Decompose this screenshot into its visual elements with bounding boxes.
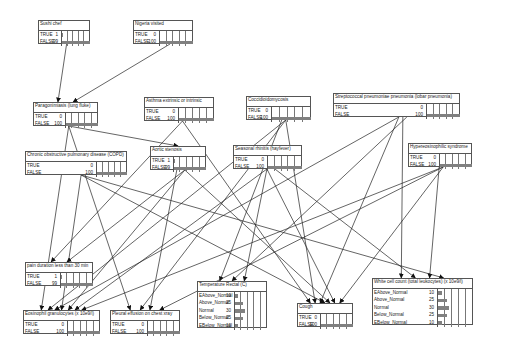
- probability-bar: [148, 331, 180, 335]
- state-label: Below_Normal: [199, 316, 229, 321]
- node-hyper[interactable]: Hypereosinophilic syndromeTRUE0FALSE100: [408, 143, 472, 167]
- probability-bar: [438, 299, 447, 303]
- state-label: Normal: [374, 306, 389, 311]
- node-nigeria[interactable]: Nigeria visitedTRUE0FALSE100: [133, 20, 193, 44]
- node-eosin[interactable]: Eosinophil granulocytes (x 10e9/l)TRUE0F…: [23, 310, 100, 334]
- state-row[interactable]: TRUE0: [34, 113, 97, 121]
- node-title: Cough: [298, 304, 352, 314]
- node-cocci[interactable]: CoccidioidomycosisTRUE0FALSE100: [246, 96, 311, 120]
- state-row[interactable]: EBelow_Normal10: [198, 322, 266, 330]
- node-copd[interactable]: Chronic obstructive pulmonary disease (C…: [25, 151, 127, 175]
- state-label: FALSE: [27, 282, 41, 287]
- state-row[interactable]: Below_Normal25: [198, 315, 266, 323]
- state-row[interactable]: Below_Normal25: [373, 312, 472, 320]
- state-row[interactable]: TRUE0: [298, 314, 352, 322]
- node-title: White cell count (total leukocytes) (x 1…: [373, 279, 472, 289]
- node-title: Eosinophil granulocytes (x 10e9/l): [24, 311, 99, 321]
- state-label: TRUE: [40, 33, 53, 38]
- state-row[interactable]: TRUE0: [247, 107, 310, 115]
- probability-bar: [438, 306, 449, 310]
- node-asthma[interactable]: Asthma extrinsic or intrinsicTRUE0FALSE1…: [144, 97, 214, 121]
- state-value: 0: [265, 109, 268, 114]
- state-row[interactable]: TRUE0: [234, 156, 301, 164]
- state-value: 30: [226, 309, 231, 314]
- state-row[interactable]: FALSE99: [151, 165, 205, 173]
- state-row[interactable]: Normal30: [373, 304, 472, 312]
- state-row[interactable]: TRUE0: [134, 31, 192, 39]
- state-row[interactable]: FALSE100: [145, 116, 213, 124]
- state-value: 0: [141, 323, 144, 328]
- node-strep[interactable]: Streptococcal pneumoniae pneumonia (loba…: [333, 93, 460, 117]
- state-row[interactable]: Above_Normal25: [373, 297, 472, 305]
- state-row[interactable]: TRUE1: [39, 31, 89, 39]
- state-value: 100: [167, 117, 175, 122]
- state-row[interactable]: TRUE1: [151, 157, 205, 165]
- state-row[interactable]: TRUE0: [26, 162, 126, 170]
- state-row[interactable]: FALSE100: [24, 329, 99, 337]
- state-label: TRUE: [146, 110, 159, 115]
- state-row[interactable]: FALSE99: [26, 281, 92, 289]
- node-wbc[interactable]: White cell count (total leukocytes) (x 1…: [372, 278, 473, 325]
- probability-bar: [68, 331, 100, 335]
- probability-bar: [427, 114, 460, 118]
- edge-arrow: [320, 117, 399, 303]
- node-title: pain duration less than 30 min: [26, 263, 92, 273]
- state-value: 10: [226, 294, 231, 299]
- state-row[interactable]: TRUE0: [409, 154, 471, 162]
- state-label: Below_Normal: [374, 313, 404, 318]
- state-row[interactable]: TRUE0: [334, 104, 459, 112]
- state-row[interactable]: FALSE100: [334, 112, 459, 120]
- state-row[interactable]: FALSE99: [39, 39, 89, 47]
- state-value: 100: [136, 330, 144, 335]
- state-row[interactable]: FALSE100: [34, 121, 97, 129]
- state-label: FALSE: [410, 163, 424, 168]
- state-label: FALSE: [146, 117, 160, 122]
- state-value: 0: [61, 323, 64, 328]
- state-value: 99: [52, 282, 57, 287]
- edge-arrow: [58, 44, 67, 102]
- state-label: TRUE: [35, 115, 48, 120]
- probability-bar: [235, 317, 243, 321]
- node-pain[interactable]: pain duration less than 30 minTRUE1FALSE…: [25, 262, 93, 286]
- edge-arrow: [68, 170, 185, 310]
- state-row[interactable]: FALSE100: [26, 170, 126, 178]
- state-row[interactable]: FALSE100: [409, 162, 471, 170]
- state-row[interactable]: FALSE100: [234, 164, 301, 172]
- probability-bar: [321, 324, 353, 328]
- edge-arrow: [430, 167, 440, 278]
- state-row[interactable]: TRUE1: [26, 273, 92, 281]
- state-row[interactable]: Above_Normal25: [198, 300, 266, 308]
- edge-arrow: [244, 169, 267, 281]
- state-row[interactable]: TRUE0: [111, 321, 179, 329]
- state-value: 25: [226, 316, 231, 321]
- node-cough[interactable]: CoughTRUE0FALSE100: [297, 303, 353, 327]
- state-row[interactable]: FALSE100: [298, 322, 352, 330]
- state-row[interactable]: FALSE100: [134, 39, 192, 47]
- state-row[interactable]: FALSE100: [247, 115, 310, 123]
- state-row[interactable]: TRUE0: [24, 321, 99, 329]
- state-label: TRUE: [335, 106, 348, 111]
- state-row[interactable]: TRUE0: [145, 108, 213, 116]
- node-aortic[interactable]: Aortic stenosisTRUE1FALSE99: [150, 146, 206, 170]
- state-value: 1: [55, 33, 58, 38]
- state-label: Normal: [199, 309, 214, 314]
- node-temp[interactable]: Temperature Rectal (C)EAbove_Normal10Abo…: [197, 281, 267, 328]
- node-sushi[interactable]: Sushi chefTRUE1FALSE99: [38, 20, 90, 44]
- state-row[interactable]: EAbove_Normal10: [373, 289, 472, 297]
- state-row[interactable]: FALSE100: [111, 329, 179, 337]
- node-paragon[interactable]: Paragonimiasis (lung fluke)TRUE0FALSE100: [33, 102, 98, 126]
- node-title: Sushi chef: [39, 21, 89, 31]
- state-row[interactable]: EAbove_Normal10: [198, 292, 266, 300]
- state-label: TRUE: [248, 109, 261, 114]
- state-value: 0: [59, 115, 62, 120]
- state-value: 99: [53, 40, 58, 45]
- state-row[interactable]: EBelow_Normal10: [373, 319, 472, 327]
- state-value: 10: [429, 321, 434, 326]
- state-row[interactable]: Normal30: [198, 307, 266, 315]
- node-pleural[interactable]: Pleural effusion on chest xrayTRUE0FALSE…: [110, 310, 180, 334]
- node-rhinitis[interactable]: Seasonal rhinitis (hayfever)TRUE0FALSE10…: [233, 145, 302, 169]
- state-label: TRUE: [299, 316, 312, 321]
- state-value: 0: [433, 156, 436, 161]
- state-value: 100: [415, 113, 423, 118]
- edge-arrow: [150, 170, 177, 310]
